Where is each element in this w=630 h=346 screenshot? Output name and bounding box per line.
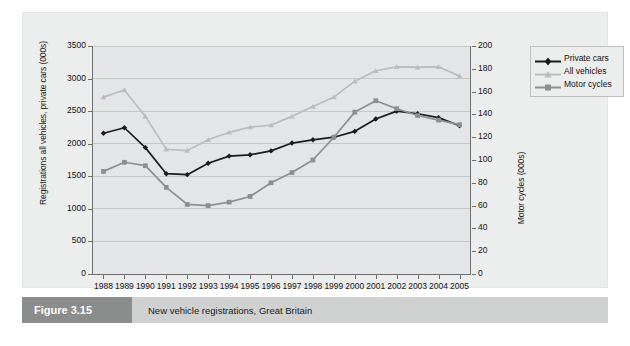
figure-title: New vehicle registrations, Great Britain: [132, 297, 608, 323]
y-axis-left-tick-3500: 3500: [47, 40, 86, 50]
y-axis-right-tick-160: 160: [478, 86, 504, 96]
axis-rule: [88, 111, 92, 112]
axis-rule: [88, 274, 92, 275]
axis-rule: [92, 274, 471, 275]
legend-label-all-vehicles: All vehicles: [564, 66, 607, 77]
y-axis-left-tick-3000: 3000: [47, 73, 86, 83]
all-vehicles-legend-icon: [535, 66, 561, 77]
y-axis-right-tick-200: 200: [478, 40, 504, 50]
legend-label-motor-cycles: Motor cycles: [564, 79, 612, 90]
axis-rule: [88, 79, 92, 80]
axis-rule: [208, 275, 209, 279]
y-axis-right-tick-60: 60: [478, 200, 504, 210]
y-axis-left-tick-1000: 1000: [47, 203, 86, 213]
private-cars-legend-icon: [535, 53, 561, 64]
y-axis-right-tick-100: 100: [478, 154, 504, 164]
axis-rule: [472, 160, 476, 161]
axis-rule: [472, 137, 476, 138]
axis-rule: [472, 114, 476, 115]
figure-number: Figure 3.15: [22, 297, 132, 323]
axis-rule: [187, 275, 188, 279]
y-axis-right-tick-40: 40: [478, 222, 504, 232]
y-axis-left-tick-2500: 2500: [47, 105, 86, 115]
axis-rule: [88, 176, 92, 177]
axis-rule: [460, 275, 461, 279]
axis-rule: [103, 275, 104, 279]
axis-rule: [250, 275, 251, 279]
axis-rule: [88, 46, 92, 47]
motor-cycles-legend-icon: [535, 79, 561, 90]
axis-rule: [472, 92, 476, 93]
axis-rule: [376, 275, 377, 279]
y-axis-right-title: Motor cycles (000s): [516, 133, 526, 243]
axis-rule: [292, 275, 293, 279]
axis-rule: [166, 275, 167, 279]
y-axis-right-tick-0: 0: [478, 268, 504, 278]
axis-rule: [439, 275, 440, 279]
plot-area: [93, 46, 470, 274]
chart-legend: Private cars All vehicles Motor cycles: [530, 46, 624, 97]
y-axis-left-tick-500: 500: [47, 235, 86, 245]
axis-rule: [334, 275, 335, 279]
axis-rule: [88, 209, 92, 210]
axis-rule: [92, 46, 93, 275]
y-axis-left-tick-2000: 2000: [47, 138, 86, 148]
axis-rule: [88, 144, 92, 145]
axis-rule: [145, 275, 146, 279]
legend-label-private-cars: Private cars: [564, 53, 609, 64]
y-axis-left-tick-1500: 1500: [47, 170, 86, 180]
y-axis-right-tick-120: 120: [478, 131, 504, 141]
figure-caption: Figure 3.15 New vehicle registrations, G…: [22, 297, 608, 323]
y-axis-right-tick-80: 80: [478, 177, 504, 187]
axis-rule: [313, 275, 314, 279]
axis-rule: [229, 275, 230, 279]
legend-item-private-cars[interactable]: Private cars: [535, 52, 619, 65]
y-axis-right-tick-140: 140: [478, 108, 504, 118]
y-axis-right-tick-180: 180: [478, 63, 504, 73]
chart-panel: Registrations all vehicles, private cars…: [22, 12, 608, 288]
axis-rule: [472, 206, 476, 207]
legend-item-all-vehicles[interactable]: All vehicles: [535, 65, 619, 78]
axis-rule: [472, 274, 476, 275]
axis-rule: [472, 251, 476, 252]
axis-rule: [271, 275, 272, 279]
y-axis-right-tick-20: 20: [478, 245, 504, 255]
axis-rule: [88, 241, 92, 242]
legend-item-motor-cycles[interactable]: Motor cycles: [535, 78, 619, 91]
axis-rule: [397, 275, 398, 279]
plot-svg: [93, 46, 470, 274]
axis-rule: [418, 275, 419, 279]
axis-rule: [472, 228, 476, 229]
axis-rule: [472, 69, 476, 70]
x-axis-tick-2005: 2005: [446, 281, 474, 291]
y-axis-left-tick-0: 0: [47, 268, 86, 278]
figure-container: Registrations all vehicles, private cars…: [0, 0, 630, 346]
axis-rule: [355, 275, 356, 279]
axis-rule: [472, 46, 476, 47]
axis-rule: [124, 275, 125, 279]
axis-rule: [472, 183, 476, 184]
axis-rule: [470, 46, 471, 275]
